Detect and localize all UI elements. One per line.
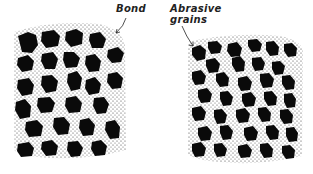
grains-leader-arrow — [182, 26, 193, 46]
abrasive-grains-label-line2: grains — [170, 14, 207, 25]
diagram-canvas — [0, 0, 313, 174]
bond-label: Bond — [116, 3, 146, 14]
abrasive-grains-label-line1: Abrasive — [170, 3, 222, 14]
bond-leader-arrow — [116, 18, 126, 33]
